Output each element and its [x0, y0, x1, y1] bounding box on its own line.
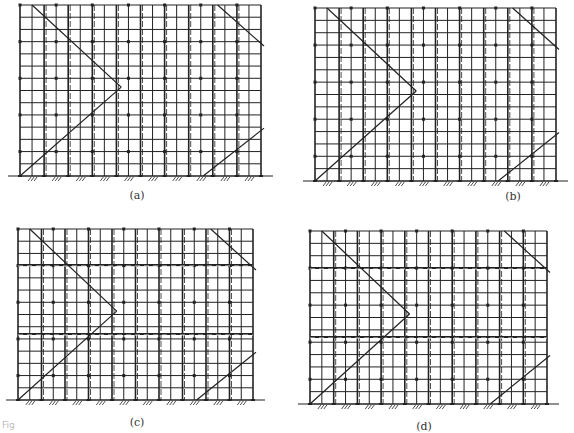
wall-tie-node — [122, 301, 125, 304]
wall-tie-node — [163, 77, 166, 80]
ground-hatch — [546, 182, 549, 186]
ground-hatch — [100, 177, 103, 181]
scaffold-diagram-canvas — [0, 0, 574, 433]
ground-hatch — [221, 177, 224, 181]
ground-hatch — [447, 182, 450, 186]
wall-tie-node — [87, 301, 90, 304]
ground-hatch — [190, 401, 193, 405]
ground-hatch — [149, 177, 152, 181]
wall-tie-node — [55, 40, 58, 43]
ground-hatch — [490, 405, 493, 409]
ground-hatch — [401, 182, 404, 186]
ground-hatch — [395, 182, 398, 186]
wall-tie-node — [163, 4, 166, 7]
wall-tie-node — [530, 7, 533, 10]
ground-hatch — [345, 405, 348, 409]
ground-hatch — [519, 182, 522, 186]
wall-tie-node — [422, 155, 425, 158]
wall-tie-node — [52, 374, 55, 377]
wall-tie-node — [415, 341, 418, 344]
ground-hatch — [170, 401, 173, 405]
wall-tie-node — [193, 301, 196, 304]
ground-hatch — [371, 405, 374, 409]
ground-hatch — [540, 182, 543, 186]
wall-tie-node — [530, 44, 533, 47]
wall-tie-node — [314, 7, 317, 10]
ground-hatch — [32, 401, 35, 405]
wall-tie-node — [422, 81, 425, 84]
ground-hatch — [130, 177, 133, 181]
ground-hatch — [324, 405, 327, 409]
ground-hatch — [321, 405, 324, 409]
ground-hatch — [436, 405, 439, 409]
wall-tie-node — [122, 337, 125, 340]
wall-tie-node — [458, 44, 461, 47]
wall-tie-node — [87, 228, 90, 231]
ground-hatch — [73, 401, 76, 405]
wall-tie-node — [235, 4, 238, 7]
wall-tie-node — [91, 77, 94, 80]
ground-hatch — [444, 182, 447, 186]
ground-hatch — [176, 177, 179, 181]
ground-hatch — [413, 405, 416, 409]
wall-tie-node — [158, 301, 161, 304]
wall-tie-node — [199, 40, 202, 43]
wall-tie-node — [235, 77, 238, 80]
wall-tie-node — [380, 378, 383, 381]
wall-tie-node — [309, 341, 312, 344]
panel-c-label: (c) — [130, 416, 145, 429]
wall-tie-node — [415, 378, 418, 381]
ground-hatch — [389, 405, 392, 409]
ground-hatch — [463, 405, 466, 409]
ground-hatch — [368, 405, 371, 409]
ground-hatch — [106, 177, 109, 181]
scaffold-panel-b — [303, 7, 568, 187]
ground-hatch — [243, 401, 246, 405]
wall-tie-node — [451, 304, 454, 307]
ground-hatch — [52, 177, 55, 181]
wall-tie-node — [522, 230, 525, 233]
ground-hatch — [510, 405, 513, 409]
ground-hatch — [534, 405, 537, 409]
wall-tie-node — [199, 77, 202, 80]
diagonal-brace — [20, 87, 121, 176]
wall-tie-node — [422, 7, 425, 10]
ground-hatch — [342, 405, 345, 409]
wall-tie-node — [158, 337, 161, 340]
ground-hatch — [26, 401, 29, 405]
scaffold-panel-d — [298, 230, 559, 410]
wall-tie-node — [344, 230, 347, 233]
ground-hatch — [492, 182, 495, 186]
wall-tie-node — [91, 4, 94, 7]
ground-hatch — [179, 177, 182, 181]
panel-b-label: (b) — [505, 190, 521, 203]
ground-hatch — [419, 405, 422, 409]
ground-hatch — [214, 401, 217, 405]
wall-tie-node — [127, 4, 130, 7]
ground-hatch — [127, 177, 130, 181]
wall-tie-node — [386, 81, 389, 84]
ground-hatch — [460, 405, 463, 409]
ground-hatch — [76, 401, 79, 405]
wall-tie-node — [494, 7, 497, 10]
wall-tie-node — [380, 230, 383, 233]
ground-hatch — [102, 401, 105, 405]
ground-hatch — [120, 401, 123, 405]
wall-tie-node — [19, 150, 22, 153]
wall-tie-node — [451, 341, 454, 344]
ground-hatch — [203, 177, 206, 181]
ground-hatch — [347, 182, 350, 186]
wall-tie-node — [17, 337, 20, 340]
ground-hatch — [49, 401, 52, 405]
wall-tie-node — [52, 337, 55, 340]
wall-tie-node — [17, 301, 20, 304]
wall-tie-node — [314, 155, 317, 158]
ground-hatch — [498, 182, 501, 186]
wall-tie-node — [199, 4, 202, 7]
ground-hatch — [353, 182, 356, 186]
wall-tie-node — [235, 40, 238, 43]
wall-tie-node — [422, 44, 425, 47]
ground-hatch — [31, 177, 34, 181]
ground-hatch — [52, 401, 55, 405]
ground-hatch — [466, 405, 469, 409]
